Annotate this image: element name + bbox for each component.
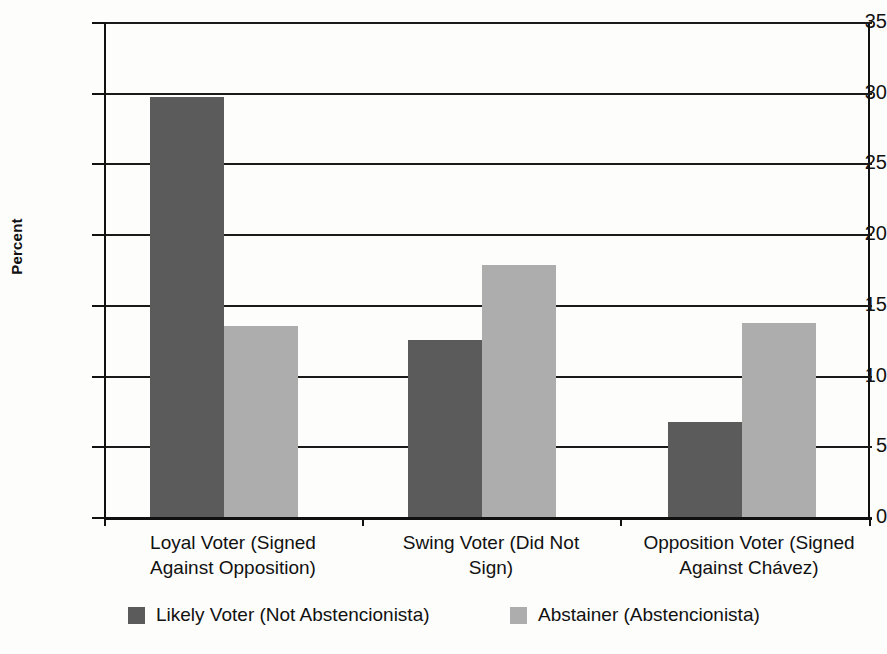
legend-item-1[interactable]: Abstainer (Abstencionista) (510, 604, 760, 626)
bars-layer (104, 22, 870, 517)
category-label-1: Swing Voter (Did NotSign) (351, 530, 631, 580)
y-tick-mark-25 (92, 163, 104, 165)
y-tick-mark-20 (92, 234, 104, 236)
category-label-2-line-0: Opposition Voter (Signed (609, 530, 887, 555)
bar-0-0 (150, 97, 224, 517)
category-label-1-line-1: Sign) (351, 555, 631, 580)
y-tick-mark-10 (92, 376, 104, 378)
chart-legend: Likely Voter (Not Abstencionista)Abstain… (104, 604, 870, 644)
legend-item-0[interactable]: Likely Voter (Not Abstencionista) (128, 604, 430, 626)
y-tick-mark-35 (92, 22, 104, 24)
x-tick-1 (362, 517, 364, 526)
bar-1-1 (482, 265, 556, 517)
legend-label-0: Likely Voter (Not Abstencionista) (156, 604, 430, 626)
category-label-1-line-0: Swing Voter (Did Not (351, 530, 631, 555)
legend-swatch-dark-icon (128, 607, 145, 624)
y-tick-mark-5 (92, 446, 104, 448)
gridline-0 (106, 517, 872, 520)
bar-2-1 (742, 323, 816, 517)
y-tick-mark-30 (92, 93, 104, 95)
category-label-0-line-0: Loyal Voter (Signed (93, 530, 373, 555)
x-tick-2 (620, 517, 622, 526)
y-tick-mark-15 (92, 305, 104, 307)
x-tick-0 (104, 517, 106, 526)
legend-label-1: Abstainer (Abstencionista) (538, 604, 760, 626)
category-label-0-line-1: Against Opposition) (93, 555, 373, 580)
category-label-2: Opposition Voter (SignedAgainst Chávez) (609, 530, 887, 580)
category-label-2-line-1: Against Chávez) (609, 555, 887, 580)
bar-2-0 (668, 422, 742, 517)
legend-swatch-light-icon (510, 607, 527, 624)
bar-1-0 (408, 340, 482, 517)
y-axis-title: Percent (8, 207, 25, 287)
bar-0-1 (224, 326, 298, 517)
bar-chart: Percent 35302520151050 Loyal Voter (Sign… (0, 0, 887, 654)
y-tick-mark-0 (92, 517, 104, 519)
category-label-0: Loyal Voter (SignedAgainst Opposition) (93, 530, 373, 580)
x-tick-3 (869, 517, 871, 526)
